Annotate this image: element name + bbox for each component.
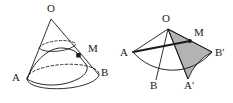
cone-base-front [27, 74, 99, 89]
label-A-cone: A [12, 71, 20, 83]
figure-svg: O M A B O M A [0, 0, 233, 103]
point-marker-M-sector [188, 39, 192, 43]
label-B-sector: B [150, 79, 157, 91]
cone-geodesic-path-M-to-B [27, 63, 87, 85]
unrolled-sector-diagram: O M A B′ B A′ [120, 12, 225, 91]
label-A-sector: A [120, 46, 128, 58]
label-O-cone: O [47, 2, 55, 14]
label-Aprime-sector: A′ [184, 79, 194, 91]
cone-base-back-dashed [27, 64, 99, 79]
geometry-figure: O M A B O M A [0, 0, 233, 103]
cone-diagram: O M A B [12, 2, 108, 89]
sector-radius-OB [156, 29, 168, 80]
right-angle-marker-M [77, 54, 80, 57]
label-M-cone: M [88, 42, 98, 54]
label-O-sector: O [162, 12, 170, 24]
shaded-sector-region [168, 29, 212, 79]
cone-geodesic-path-A-to-M [27, 48, 79, 79]
label-Bprime-sector: B′ [215, 46, 225, 58]
label-B-cone: B [101, 66, 108, 78]
cone-cross-section-front [39, 44, 76, 51]
cone-slant-left-OA [27, 19, 51, 79]
cone-cross-section-back-dashed [39, 41, 76, 48]
label-M-sector: M [194, 26, 204, 38]
